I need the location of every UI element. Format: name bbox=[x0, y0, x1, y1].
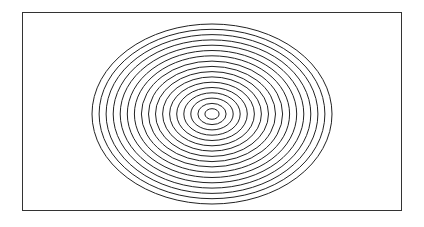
ellipse-ring-7 bbox=[163, 77, 262, 151]
ellipse-ring-14 bbox=[113, 40, 311, 188]
ellipse-ring-3 bbox=[191, 98, 233, 130]
concentric-ellipses bbox=[0, 0, 424, 227]
ellipse-ring-15 bbox=[106, 35, 318, 194]
ellipse-ring-11 bbox=[134, 56, 289, 172]
ellipse-ring-1 bbox=[205, 109, 219, 120]
ellipse-ring-5 bbox=[177, 88, 248, 141]
ellipse-ring-13 bbox=[120, 45, 304, 183]
ellipse-ring-6 bbox=[170, 82, 255, 146]
ellipse-ring-12 bbox=[127, 51, 296, 178]
ellipse-ring-9 bbox=[149, 66, 276, 161]
ellipse-ring-2 bbox=[198, 103, 226, 124]
ellipse-ring-8 bbox=[156, 72, 269, 157]
ellipse-ring-4 bbox=[184, 93, 240, 135]
ellipse-ring-16 bbox=[99, 29, 325, 198]
